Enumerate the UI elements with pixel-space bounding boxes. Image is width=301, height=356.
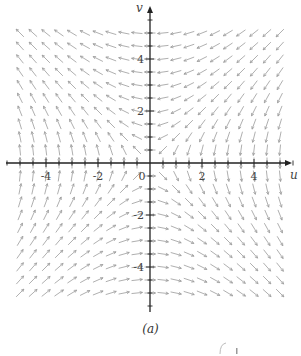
field-arrow — [250, 263, 258, 271]
field-arrow — [43, 93, 49, 102]
field-arrow — [197, 82, 206, 88]
field-arrow — [225, 106, 231, 115]
field-arrow — [81, 94, 89, 102]
field-arrow — [223, 30, 232, 36]
field-arrow — [250, 68, 257, 76]
field-arrow — [55, 250, 63, 258]
field-arrow — [106, 95, 115, 101]
field-arrow — [264, 68, 271, 77]
field-arrow — [210, 56, 219, 62]
field-arrow — [159, 172, 167, 180]
field-arrow — [56, 224, 62, 233]
field-arrow — [81, 81, 89, 88]
field-arrow — [30, 250, 37, 259]
field-arrow — [199, 198, 206, 207]
x-tick-label: 0 — [139, 170, 146, 183]
field-arrow — [68, 68, 76, 75]
field-arrow — [277, 67, 283, 76]
field-arrow — [81, 224, 89, 232]
field-arrow — [199, 120, 206, 129]
field-arrow — [93, 69, 103, 74]
field-arrow — [212, 107, 219, 116]
field-arrow — [120, 133, 128, 141]
field-arrow — [55, 43, 64, 50]
x-tick-label: -4 — [41, 170, 52, 183]
field-arrow — [67, 277, 76, 283]
field-arrow — [224, 68, 232, 75]
field-arrow — [82, 119, 88, 128]
field-arrow — [264, 250, 271, 259]
field-arrow — [159, 146, 167, 154]
field-arrow — [119, 121, 128, 127]
field-arrow — [56, 94, 62, 103]
field-arrow — [54, 290, 63, 296]
field-arrow — [237, 81, 244, 89]
field-arrow — [212, 197, 218, 206]
field-arrow — [54, 30, 63, 36]
field-arrow — [55, 81, 62, 89]
field-arrow — [224, 94, 231, 102]
field-arrow — [16, 42, 23, 50]
field-arrow — [42, 290, 51, 297]
field-arrow — [171, 199, 180, 205]
field-arrow — [211, 237, 219, 244]
field-arrow — [225, 210, 231, 219]
field-arrow — [236, 290, 245, 296]
field-arrow — [264, 236, 270, 245]
field-arrow — [55, 237, 62, 245]
field-arrow — [276, 276, 283, 284]
field-arrow — [56, 106, 61, 116]
field-arrow — [80, 277, 90, 282]
field-arrow — [197, 251, 207, 256]
field-arrow — [69, 106, 75, 115]
field-arrow — [237, 237, 244, 245]
field-arrow — [43, 223, 49, 232]
field-arrow — [276, 29, 284, 37]
field-arrow — [185, 108, 194, 115]
field-arrow — [251, 81, 258, 90]
field-arrow — [107, 120, 115, 128]
field-arrow — [197, 69, 207, 74]
field-arrow — [80, 43, 90, 48]
field-arrow — [17, 249, 23, 258]
field-arrow — [238, 210, 243, 220]
y-tick-label: 2 — [137, 105, 144, 118]
x-tick-label: -2 — [93, 170, 104, 183]
field-arrow — [17, 80, 23, 89]
field-arrow — [133, 146, 141, 154]
field-arrow — [198, 95, 207, 102]
field-arrow — [211, 81, 219, 88]
field-arrow — [55, 277, 64, 284]
field-arrow — [224, 81, 232, 89]
field-arrow — [17, 236, 23, 245]
field-arrow — [212, 119, 218, 128]
field-arrow — [264, 223, 269, 233]
field-arrow — [81, 237, 89, 244]
field-arrow — [172, 133, 180, 141]
field-arrow — [120, 185, 128, 193]
figure-caption: (a) — [0, 322, 301, 336]
field-arrow — [250, 30, 259, 37]
field-arrow — [43, 81, 50, 90]
field-arrow — [55, 55, 63, 62]
field-arrow — [211, 251, 220, 257]
field-arrow — [29, 289, 37, 296]
field-arrow — [264, 80, 270, 89]
field-arrow — [107, 212, 116, 219]
field-arrow — [184, 95, 193, 101]
field-arrow — [250, 290, 259, 297]
field-arrow — [17, 55, 24, 64]
field-arrow — [250, 276, 258, 283]
field-arrow — [198, 211, 206, 219]
field-arrow — [211, 69, 220, 75]
field-arrow — [68, 264, 77, 271]
field-arrow — [29, 55, 36, 63]
field-arrow — [210, 43, 220, 48]
field-arrow — [224, 264, 233, 271]
field-arrow — [42, 250, 49, 258]
field-arrow — [16, 29, 24, 37]
field-arrow — [263, 29, 271, 36]
y-tick-label: -2 — [133, 209, 144, 222]
field-arrow — [211, 94, 219, 102]
field-arrow — [93, 238, 102, 244]
